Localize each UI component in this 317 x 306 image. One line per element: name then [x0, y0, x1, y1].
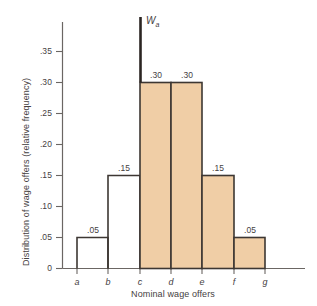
bar-value-a-b: .05 [80, 226, 106, 235]
x-tick-label-d: d [161, 278, 181, 287]
x-tick-label-a: a [67, 278, 87, 287]
bar-a-b[interactable] [77, 238, 108, 269]
bar-value-b-c: .15 [111, 164, 137, 173]
bar-value-e-f: .15 [205, 164, 231, 173]
y-tick-label-20: .20 [30, 140, 52, 149]
y-tick-label-30: .30 [30, 78, 52, 87]
y-axis-ticks [56, 52, 63, 269]
bar-value-c-d: .30 [143, 71, 169, 80]
bar-e-f[interactable] [202, 176, 234, 269]
bar-value-f-g: .05 [237, 226, 263, 235]
bar-d-e[interactable] [171, 83, 202, 269]
y-tick-label-25: .25 [30, 109, 52, 118]
y-tick-label-35: .35 [30, 47, 52, 56]
x-tick-label-c: c [130, 278, 150, 287]
chart-figure: 0 .05 .10 .15 .20 .25 .30 .35 a b c d e … [0, 0, 317, 306]
x-tick-label-g: g [255, 278, 275, 287]
y-axis-title: Distribution of wage offers (relative fr… [22, 78, 31, 266]
bar-f-g[interactable] [234, 238, 265, 269]
x-tick-label-b: b [98, 278, 118, 287]
y-tick-label-05: .05 [30, 233, 52, 242]
reservation-wage-label-sub: a [155, 21, 159, 28]
y-tick-label-10: .10 [30, 202, 52, 211]
x-axis-title: Nominal wage offers [103, 290, 243, 299]
x-tick-label-e: e [192, 278, 212, 287]
reservation-wage-label: Wa [146, 16, 159, 28]
y-tick-label-0: 0 [30, 264, 52, 273]
y-tick-label-15: .15 [30, 171, 52, 180]
bar-c-d[interactable] [140, 83, 171, 269]
bar-b-c[interactable] [108, 176, 140, 269]
bar-value-d-e: .30 [174, 71, 200, 80]
x-tick-label-f: f [224, 278, 244, 287]
x-axis-ticks [77, 269, 265, 275]
